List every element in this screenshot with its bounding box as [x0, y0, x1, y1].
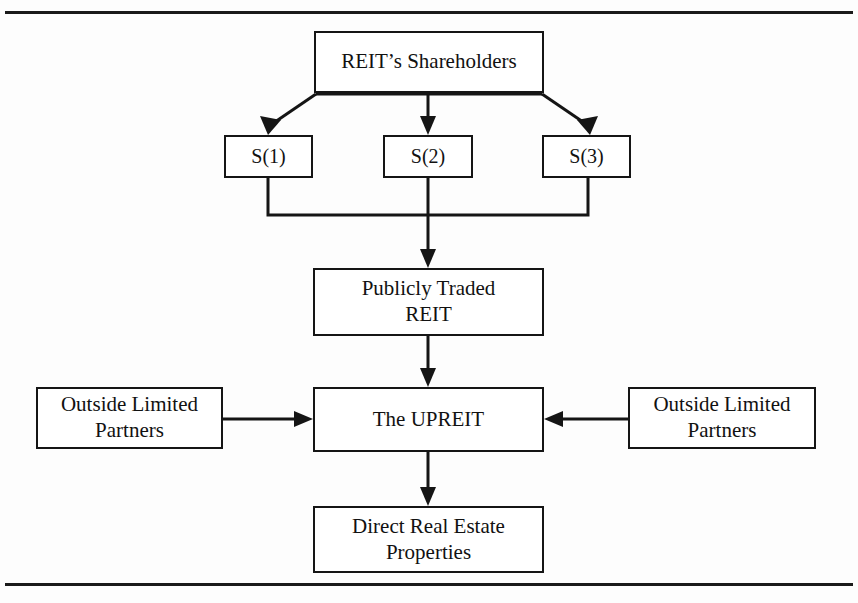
edge-s3-to-bus: [428, 178, 588, 215]
node-the-upreit[interactable]: The UPREIT: [313, 387, 544, 452]
arrowhead-properties: [420, 487, 436, 506]
node-label: The UPREIT: [373, 407, 484, 433]
edge-s1-to-bus: [268, 178, 428, 215]
top-horizontal-rule: [5, 11, 853, 14]
cropped-header-text-remnant: [150, 0, 450, 7]
node-direct-real-estate-properties[interactable]: Direct Real Estate Properties: [313, 506, 544, 573]
edge-shareholders-to-s3: [542, 94, 586, 124]
node-label: Direct Real Estate Properties: [352, 514, 505, 565]
node-s3[interactable]: S(3): [542, 135, 631, 178]
edge-shareholders-to-s1: [272, 94, 316, 124]
bottom-horizontal-rule: [5, 583, 853, 586]
arrowhead-s2: [420, 116, 436, 135]
node-label-line2: Partners: [95, 418, 164, 442]
node-label: S(1): [251, 144, 285, 168]
node-outside-limited-partners-right[interactable]: Outside Limited Partners: [628, 387, 816, 449]
arrowhead-upreit-top: [420, 368, 436, 387]
node-s2[interactable]: S(2): [383, 135, 473, 178]
node-label: Publicly Traded REIT: [362, 276, 496, 327]
node-label: REIT’s Shareholders: [341, 49, 517, 75]
node-label: S(3): [569, 144, 603, 168]
node-publicly-traded-reit[interactable]: Publicly Traded REIT: [313, 268, 544, 336]
arrowhead-upreit-left: [294, 411, 313, 427]
arrowhead-upreit-right: [544, 411, 563, 427]
node-label-line2: Partners: [688, 418, 757, 442]
arrowhead-reit: [420, 249, 436, 268]
node-label-line1: Outside Limited: [61, 392, 198, 416]
node-label-line1: Direct Real Estate: [352, 514, 505, 538]
node-label: Outside Limited Partners: [653, 392, 790, 443]
node-label: S(2): [411, 144, 445, 168]
node-outside-limited-partners-left[interactable]: Outside Limited Partners: [36, 387, 223, 449]
arrowhead-s3: [577, 116, 598, 135]
node-label-line2: REIT: [405, 302, 452, 326]
arrowhead-s1: [260, 116, 281, 135]
diagram-page: REIT’s Shareholders S(1) S(2) S(3) Publi…: [0, 0, 858, 603]
node-label-line1: Publicly Traded: [362, 276, 496, 300]
node-label-line2: Properties: [386, 540, 471, 564]
node-s1[interactable]: S(1): [224, 135, 313, 178]
node-reits-shareholders[interactable]: REIT’s Shareholders: [314, 31, 544, 93]
node-label: Outside Limited Partners: [61, 392, 198, 443]
node-label-line1: Outside Limited: [653, 392, 790, 416]
